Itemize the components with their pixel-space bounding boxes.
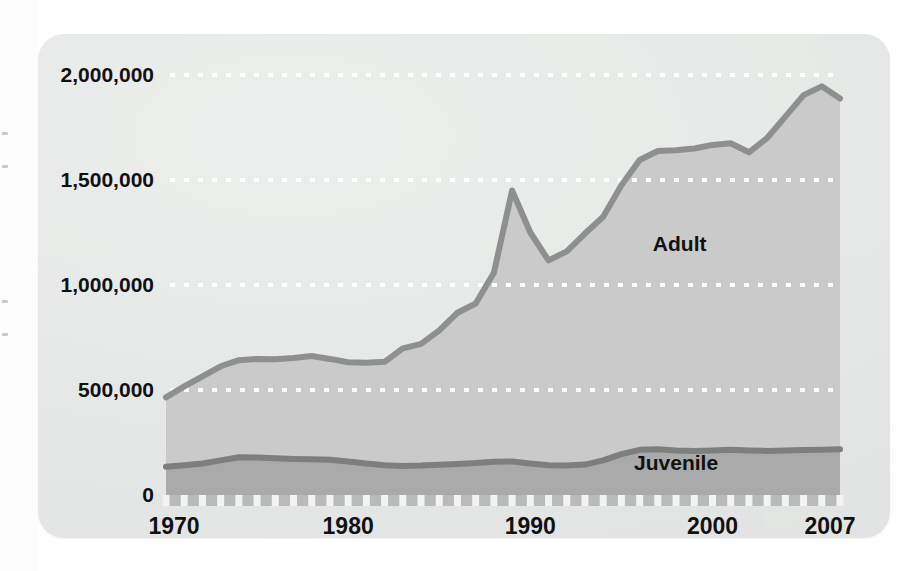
x-axis-minor-ticks	[166, 495, 840, 506]
y-axis-tick-label: 1,500,000	[61, 168, 154, 191]
x-axis-band	[166, 495, 840, 506]
series-label-adult: Adult	[653, 232, 707, 255]
x-axis-tick-label: 2000	[687, 513, 738, 539]
x-axis-tick-label: 1970	[148, 513, 199, 539]
y-axis-tick-label: 500,000	[78, 378, 154, 401]
y-axis-tick-label: 0	[142, 483, 154, 506]
stacked-area-chart: 0500,0001,000,0001,500,0002,000,000 1970…	[0, 0, 921, 571]
y-axis-tick-labels: 0500,0001,000,0001,500,0002,000,000	[61, 63, 154, 506]
x-axis-tick-labels: 19701980199020002007	[148, 513, 855, 539]
x-axis-tick-label: 1980	[323, 513, 374, 539]
x-axis-tick-label: 1990	[505, 513, 556, 539]
adult-area-fill	[166, 86, 840, 466]
x-axis-tick-label: 2007	[804, 513, 855, 539]
y-axis-tick-label: 2,000,000	[61, 63, 154, 86]
y-axis-tick-label: 1,000,000	[61, 273, 154, 296]
series-label-juvenile: Juvenile	[634, 451, 718, 474]
